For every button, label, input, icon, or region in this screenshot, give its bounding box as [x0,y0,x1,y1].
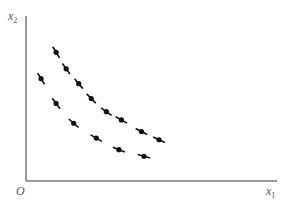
data-point-marker [104,109,109,114]
x-axis-label: x1 [266,185,275,200]
y-axis-label: x2 [8,10,17,25]
data-point-marker [94,136,99,141]
lower-curve [38,73,151,159]
data-point-marker [141,154,146,159]
data-point-marker [119,117,124,122]
data-point-marker [116,147,121,152]
data-point-marker [156,137,161,142]
data-point-marker [89,96,94,101]
data-point-marker [38,76,43,81]
origin-label: O [16,185,25,197]
data-point-marker [54,101,59,106]
data-point-marker [76,81,81,86]
data-point-marker [64,66,69,71]
data-point-marker [139,129,144,134]
data-point-marker [71,121,76,126]
upper-curve [53,47,165,143]
indifference-curve-chart [0,0,284,223]
data-point-marker [54,50,59,55]
